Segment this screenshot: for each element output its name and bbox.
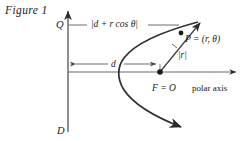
radius-bracket-tick [172, 44, 177, 48]
polar-axis-label: polar axis [192, 84, 227, 93]
focal-distance-label: |d + r cos θ| [91, 20, 138, 30]
radius-ray [160, 23, 200, 72]
point-p-marker [179, 31, 184, 36]
focus-label: F = O [152, 84, 176, 94]
radius-label: |r| [178, 51, 187, 61]
figure-caption: Figure 1 [5, 5, 48, 17]
directrix-bottom-label: D [57, 126, 65, 137]
point-p-label: P = (r, θ) [185, 35, 220, 45]
distance-d-label: d [111, 60, 116, 70]
figure-container: Figure 1 Q D |d + r cos θ| d P = (r, θ) … [0, 0, 245, 141]
directrix-top-label: Q [56, 20, 64, 31]
focus-point-marker [157, 69, 163, 75]
distance-d-measure [76, 64, 160, 72]
